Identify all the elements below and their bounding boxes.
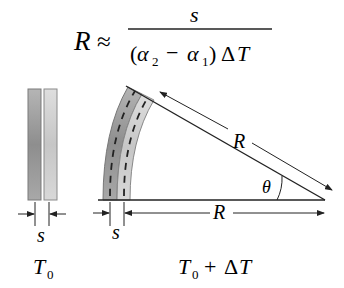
svg-text:0: 0 [192, 267, 199, 282]
left-thickness-dimension [18, 202, 66, 226]
formula-approx: ≈ [97, 28, 111, 55]
svg-text:α: α [187, 41, 199, 66]
formula: R ≈ s ( α 2 − α 1 ) Δ T [73, 2, 272, 69]
svg-text:T: T [178, 254, 192, 279]
formula-lhs: R [73, 26, 91, 56]
bent-bimetallic-strip [103, 87, 154, 200]
svg-text:): ) [209, 41, 216, 66]
metal-strip-2 [44, 89, 57, 200]
angle-label: θ [262, 177, 271, 197]
svg-text:Δ: Δ [221, 41, 235, 66]
svg-text:−: − [166, 40, 178, 65]
metal-strip-1 [28, 89, 41, 200]
svg-text:T: T [33, 254, 47, 279]
svg-text:+: + [204, 254, 216, 279]
svg-text:α: α [137, 41, 149, 66]
diagonal-radius-dimension [160, 92, 332, 190]
diagonal-radius-label: R [232, 130, 245, 152]
angle-arc [277, 176, 282, 200]
formula-denominator: ( α 2 − α 1 ) Δ T [130, 40, 251, 69]
straight-bimetallic-strip [28, 89, 57, 200]
right-temperature-label: T 0 + Δ T [178, 254, 253, 282]
left-thickness-label: s [37, 224, 45, 246]
right-thickness-label: s [112, 221, 120, 243]
svg-text:Δ: Δ [224, 254, 238, 279]
left-temperature-label: T 0 [33, 254, 54, 282]
svg-text:0: 0 [47, 267, 54, 282]
svg-text:T: T [237, 41, 251, 66]
svg-text:2: 2 [152, 54, 159, 69]
formula-numerator: s [190, 2, 199, 27]
svg-text:T: T [239, 254, 253, 279]
horizontal-radius-label: R [212, 201, 225, 223]
svg-text:1: 1 [202, 54, 209, 69]
diagonal-radius-line [126, 86, 325, 200]
bimetallic-strip-diagram: R ≈ s ( α 2 − α 1 ) Δ T s T 0 [0, 0, 344, 288]
